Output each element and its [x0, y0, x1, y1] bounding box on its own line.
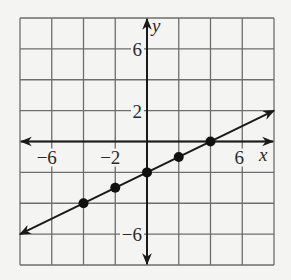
data-point [142, 167, 152, 177]
coordinate-plane: −6−2662−6 x y [0, 0, 291, 280]
x-tick-label: −6 [37, 147, 57, 168]
x-tick-label: 6 [235, 147, 245, 168]
x-axis-label: x [258, 144, 268, 165]
y-tick-label: 2 [133, 101, 143, 122]
y-tick-label: 6 [133, 39, 143, 60]
data-point [79, 198, 89, 208]
data-point [206, 137, 216, 147]
y-tick-label: −6 [122, 224, 142, 245]
x-tick-label: −2 [100, 147, 120, 168]
y-axis-label: y [150, 15, 161, 36]
data-point [174, 152, 184, 162]
data-point [110, 183, 120, 193]
